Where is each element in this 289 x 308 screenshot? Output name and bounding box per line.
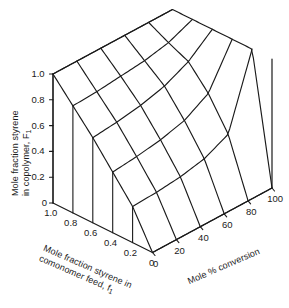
y-tick-label-1: 20 [174, 245, 185, 256]
z-tick-label-5: 1.0 [31, 68, 44, 79]
y-axis-line [153, 188, 273, 253]
iso-conversion-curve-3 [125, 35, 225, 214]
z-axis-title: Mole fraction styrene in copolymer, F1 [10, 110, 32, 196]
z-tick-label-2: 0.4 [31, 145, 44, 156]
x-tick-label-2: 0.6 [84, 227, 97, 238]
x-tick-label-1: 0.8 [64, 217, 77, 228]
z-tick-label-1: 0.2 [31, 171, 44, 182]
y-tick-label-2: 40 [198, 232, 209, 243]
y-tick-2 [200, 227, 203, 230]
z-axis-title-line2: in copolymer, F [21, 133, 31, 196]
z-axis-title-line1: Mole fraction styrene [10, 110, 20, 196]
iso-feed-curve-2 [93, 29, 213, 137]
y-tick-label-4: 80 [246, 206, 257, 217]
y-tick-3 [224, 214, 227, 217]
figure-3d-surface-plot: Mole fraction styrene in copolymer, F1 M… [0, 0, 289, 308]
y-tick-label-5: 100 [267, 193, 283, 204]
iso-feed-curve-4 [133, 49, 253, 206]
y-tick-0 [153, 253, 156, 256]
x-tick-label-3: 0.4 [104, 237, 117, 248]
y-tick-label-3: 60 [222, 219, 233, 230]
z-tick-label-4: 0.8 [31, 94, 44, 105]
iso-conversion-curve-2 [101, 48, 201, 227]
y-tick-label-0: 0 [153, 258, 158, 269]
iso-conversion-curve-5 [173, 10, 273, 189]
x-tick-label-4: 0.2 [124, 247, 137, 258]
y-tick-4 [248, 201, 251, 204]
x-tick-label-0: 1.0 [44, 207, 57, 218]
z-tick-label-3: 0.6 [31, 120, 44, 131]
iso-conversion-curve-4 [149, 22, 249, 201]
y-tick-1 [176, 240, 179, 243]
